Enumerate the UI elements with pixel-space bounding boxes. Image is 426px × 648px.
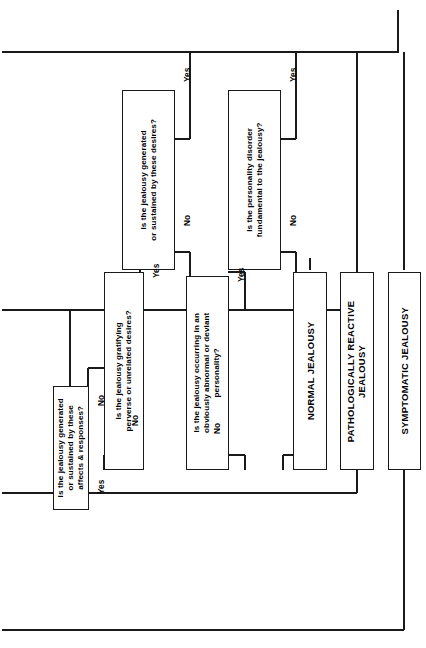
edge-label-d1-yes: Yes — [90, 478, 112, 518]
outcome-box-pathologically-reactive-jealousy[interactable]: PATHOLOGICALLY REACTIVEJEALOUSY — [340, 272, 374, 470]
decision-label: Is the jealousy generatedor sustained by… — [139, 119, 159, 241]
decision-box-personality-disorder-fundamental[interactable]: Is the personality disorderfundamental t… — [228, 90, 281, 270]
edge-label-d3-yes: Yes — [230, 266, 252, 306]
flowchart-canvas: Is the jealousy generatedor sustained by… — [0, 0, 426, 648]
edge-label-d2-yes: Yes — [145, 262, 167, 302]
edge-label-d3-no: No — [206, 418, 228, 458]
outcome-box-normal-jealousy[interactable]: NORMAL JEALOUSY — [293, 272, 327, 470]
edge-label-d2-no: No — [124, 410, 146, 450]
decision-label: Is the personality disorderfundamental t… — [245, 123, 265, 238]
outcome-label: PATHOLOGICALLY REACTIVEJEALOUSY — [346, 300, 369, 441]
decision-box-jealousy-generated-by-desires[interactable]: Is the jealousy generatedor sustained by… — [122, 90, 175, 270]
decision-label: Is the jealousy generatedor sustained by… — [56, 398, 86, 497]
outcome-box-symptomatic-jealousy[interactable]: SYMPTOMATIC JEALOUSY — [388, 272, 421, 470]
decision-box-jealousy-generated-by-affects[interactable]: Is the jealousy generatedor sustained by… — [53, 386, 89, 510]
outcome-label: SYMPTOMATIC JEALOUSY — [399, 307, 410, 435]
edge-label-d4-no: No — [176, 210, 198, 250]
edge-label-d1-no: No — [90, 390, 112, 430]
edge-label-d4-yes: Yes — [176, 66, 198, 106]
outcome-label: NORMAL JEALOUSY — [304, 322, 315, 421]
edge-label-d5-no: No — [282, 210, 304, 250]
edge-label-d5-yes: Yes — [282, 66, 304, 106]
